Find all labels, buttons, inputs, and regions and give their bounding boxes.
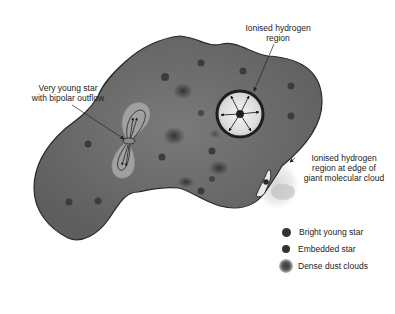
hii-label-line2: region — [238, 33, 318, 43]
dust-cloud — [209, 129, 221, 139]
legend-label: Bright young star — [299, 227, 363, 237]
bright-star-icon — [282, 228, 291, 237]
legend-label: Embedded star — [298, 244, 356, 254]
star — [85, 141, 92, 148]
star — [240, 68, 247, 75]
star — [288, 83, 295, 90]
bipolar-label-line2: with bipolar outflow — [18, 93, 118, 103]
star — [161, 73, 169, 81]
star — [209, 176, 215, 182]
edge-hii-label-line1: Ionised hydrogen — [302, 153, 386, 163]
star — [209, 148, 216, 155]
young-star-ring — [123, 138, 135, 144]
hii-region-label: Ionised hydrogen region — [238, 23, 318, 43]
legend-item-bright-young-star: Bright young star — [282, 226, 363, 238]
dust-cloud — [172, 82, 194, 100]
edge-hii-label: Ionised hydrogen region at edge of giant… — [302, 153, 386, 183]
dust-cloud — [162, 126, 186, 146]
bipolar-label: Very young star with bipolar outflow — [18, 83, 118, 103]
legend-item-embedded-star: Embedded star — [282, 243, 356, 255]
dust-cloud-icon — [279, 259, 293, 273]
star — [198, 188, 205, 195]
star — [198, 60, 205, 67]
hii-region — [217, 91, 263, 137]
legend-label: Dense dust clouds — [298, 261, 368, 271]
legend-item-dense-dust: Dense dust clouds — [282, 260, 368, 272]
edge-hii-label-line3: giant molecular cloud — [302, 173, 386, 183]
star — [288, 113, 295, 120]
edge-hii-label-line2: region at edge of — [302, 163, 386, 173]
edge-dust — [271, 184, 295, 200]
star — [159, 154, 166, 161]
hii-label-line1: Ionised hydrogen — [238, 23, 318, 33]
embedded-star-icon — [282, 245, 290, 253]
diagram-canvas: Very young star with bipolar outflow Ion… — [0, 0, 395, 314]
dust-cloud — [208, 160, 230, 176]
star — [198, 110, 204, 116]
bipolar-label-line1: Very young star — [18, 83, 118, 93]
dust-cloud — [177, 176, 195, 188]
star — [95, 198, 102, 205]
star — [66, 199, 73, 206]
